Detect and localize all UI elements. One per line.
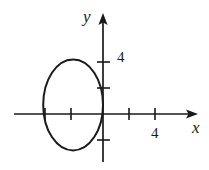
graph-figure: y x 4 4 xyxy=(0,0,209,170)
ellipse-curve xyxy=(43,59,103,150)
x-tick-label-4: 4 xyxy=(151,126,159,141)
y-axis-label: y xyxy=(83,8,91,25)
x-axis-label: x xyxy=(192,119,200,136)
coordinate-plane-svg xyxy=(0,0,209,170)
y-tick-label-4: 4 xyxy=(117,50,125,65)
